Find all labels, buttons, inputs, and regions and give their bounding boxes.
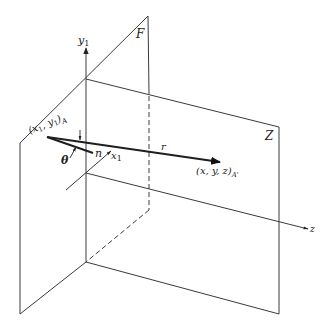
optics-geometry-diagram: F Z y1 x1 z (x1, y1)A (x, y, z)A' n r θ (0, 0, 327, 331)
front-plane-label: F (135, 27, 145, 41)
theta-label: θ (61, 154, 69, 167)
receiving-plane-label: Z (264, 129, 274, 143)
z-axis (86, 173, 308, 229)
x1-axis-label: x1 (111, 150, 122, 163)
x1-axis (66, 151, 111, 190)
target-point-label: (x, y, z)A' (196, 165, 239, 179)
front-plane (20, 16, 149, 314)
distance-label: r (161, 141, 167, 152)
distance-vector-r (47, 137, 220, 162)
normal-label: n (95, 147, 102, 160)
z-axis-label: z (309, 224, 315, 234)
theta-arrow-icon (70, 147, 76, 158)
y1-axis-label: y1 (77, 34, 89, 48)
receiving-plane (86, 79, 279, 314)
